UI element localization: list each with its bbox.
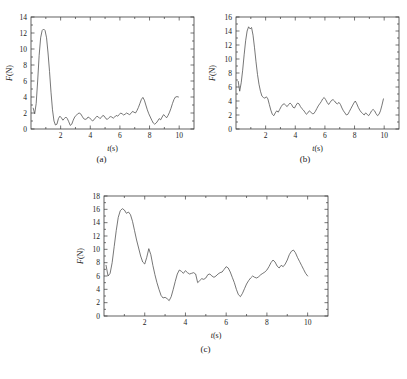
y-tick-label: 4 xyxy=(23,93,27,102)
chart-b-svg: 2468100246810121416t(s)F(N) xyxy=(203,4,407,164)
y-tick-label: 4 xyxy=(96,285,100,294)
y-tick-label: 14 xyxy=(20,13,28,22)
y-tick-label: 10 xyxy=(93,245,101,254)
data-series-line xyxy=(33,29,178,125)
x-tick-label: 6 xyxy=(224,318,228,327)
x-tick-label: 8 xyxy=(148,131,152,140)
y-tick-label: 6 xyxy=(96,272,100,281)
x-tick-label: 10 xyxy=(175,131,183,140)
plot-frame xyxy=(236,17,399,129)
y-tick-label: 14 xyxy=(225,27,233,36)
y-tick-label: 6 xyxy=(228,83,232,92)
x-tick-label: 2 xyxy=(59,131,63,140)
x-tick-label: 6 xyxy=(118,131,122,140)
y-tick-label: 2 xyxy=(96,298,100,307)
x-tick-label: 4 xyxy=(88,131,92,140)
y-tick-label: 12 xyxy=(20,29,28,38)
y-tick-label: 14 xyxy=(93,218,101,227)
y-tick-label: 4 xyxy=(228,97,232,106)
y-tick-label: 8 xyxy=(228,69,232,78)
y-tick-label: 12 xyxy=(93,232,101,241)
y-axis-title: F(N) xyxy=(76,248,85,265)
y-tick-label: 8 xyxy=(23,61,27,70)
figure-root: 24681002468101214t(s)F(N) (a) 2468100246… xyxy=(0,0,407,379)
x-axis-title: t(s) xyxy=(312,144,323,153)
y-tick-label: 16 xyxy=(225,13,233,22)
x-tick-label: 2 xyxy=(143,318,147,327)
y-tick-label: 16 xyxy=(93,205,101,214)
data-series-line xyxy=(106,209,308,301)
x-tick-label: 2 xyxy=(264,131,268,140)
y-tick-label: 0 xyxy=(96,312,100,321)
plot-frame xyxy=(104,196,328,316)
panel-b-caption: (b) xyxy=(203,154,407,164)
panel-c-caption: (c) xyxy=(73,344,338,354)
y-axis-title: F(N) xyxy=(208,65,217,82)
y-tick-label: 0 xyxy=(228,125,232,134)
y-tick-label: 2 xyxy=(23,109,27,118)
chart-a-svg: 24681002468101214t(s)F(N) xyxy=(0,4,203,164)
chart-c-svg: 246810024681012141618t(s)F(N) xyxy=(73,186,338,354)
y-tick-label: 10 xyxy=(225,55,233,64)
y-tick-label: 18 xyxy=(93,192,101,201)
x-tick-label: 8 xyxy=(265,318,269,327)
y-tick-label: 6 xyxy=(23,77,27,86)
y-tick-label: 2 xyxy=(228,111,232,120)
chart-panel-a: 24681002468101214t(s)F(N) (a) xyxy=(0,4,203,186)
data-series-line xyxy=(238,27,383,116)
y-tick-label: 10 xyxy=(20,45,28,54)
panel-a-caption: (a) xyxy=(0,154,203,164)
x-axis-title: t(s) xyxy=(211,331,222,340)
x-tick-label: 10 xyxy=(304,318,312,327)
x-tick-label: 10 xyxy=(380,131,388,140)
x-tick-label: 8 xyxy=(353,131,357,140)
x-tick-label: 4 xyxy=(184,318,188,327)
y-axis-title: F(N) xyxy=(5,65,14,82)
chart-panel-b: 2468100246810121416t(s)F(N) (b) xyxy=(203,4,407,186)
x-tick-label: 4 xyxy=(293,131,297,140)
y-tick-label: 8 xyxy=(96,258,100,267)
x-axis-title: t(s) xyxy=(107,144,118,153)
y-tick-label: 12 xyxy=(225,41,233,50)
chart-panel-c: 246810024681012141618t(s)F(N) (c) xyxy=(73,186,338,379)
y-tick-label: 0 xyxy=(23,125,27,134)
x-tick-label: 6 xyxy=(323,131,327,140)
